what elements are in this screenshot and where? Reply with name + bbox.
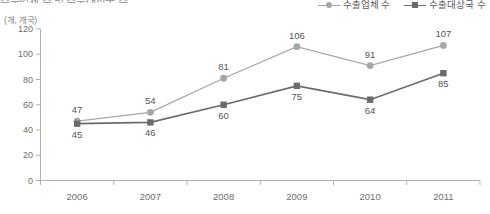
series-layer <box>74 42 447 127</box>
data-point-marker[interactable] <box>440 42 447 49</box>
data-point-marker[interactable] <box>74 120 80 126</box>
y-axis: 020406080100120 <box>18 24 41 186</box>
y-tick-label: 120 <box>18 24 33 34</box>
x-tick-label: 2006 <box>67 191 88 202</box>
y-tick-label: 60 <box>23 100 33 110</box>
data-point-marker[interactable] <box>220 75 227 82</box>
x-axis-ticks: 200620072008200920102011 <box>41 181 481 203</box>
chart-svg: 020406080100120 200620072008200920102011… <box>0 0 490 214</box>
x-axis: 200620072008200920102011 <box>41 181 481 203</box>
data-point-label: 75 <box>292 91 303 102</box>
y-tick-label: 0 <box>28 176 33 186</box>
chart-container: 수출업체 수 및 수출대상국 수 수출업체 수 수출대상국 수 (개, 개국) … <box>0 0 490 214</box>
data-point-label: 60 <box>218 110 229 121</box>
y-tick-label: 100 <box>18 49 33 59</box>
x-tick-label: 2008 <box>213 191 234 202</box>
data-point-label: 81 <box>218 61 229 72</box>
plot-area: 020406080100120 200620072008200920102011… <box>0 0 490 214</box>
data-point-marker[interactable] <box>147 119 153 125</box>
data-point-label: 91 <box>365 49 376 60</box>
x-tick-label: 2011 <box>433 191 453 202</box>
series-line-export-countries <box>77 73 443 124</box>
data-point-marker[interactable] <box>367 97 373 103</box>
y-tick-label: 80 <box>23 75 33 85</box>
data-point-marker[interactable] <box>147 109 154 116</box>
data-point-label: 46 <box>145 127 156 138</box>
x-tick-label: 2007 <box>140 191 161 202</box>
data-point-label: 107 <box>435 28 451 39</box>
data-point-marker[interactable] <box>367 62 374 69</box>
y-tick-label: 40 <box>23 125 33 135</box>
y-axis-ticks: 020406080100120 <box>18 24 41 186</box>
data-point-marker[interactable] <box>440 70 446 76</box>
data-point-label: 85 <box>438 78 449 89</box>
data-point-label: 54 <box>145 95 156 106</box>
x-tick-label: 2010 <box>360 191 381 202</box>
x-tick-label: 2009 <box>286 191 307 202</box>
data-point-marker[interactable] <box>294 83 300 89</box>
data-point-label: 64 <box>365 105 376 116</box>
data-point-marker[interactable] <box>293 43 300 50</box>
data-point-label: 45 <box>72 129 83 140</box>
y-tick-label: 20 <box>23 150 33 160</box>
data-point-marker[interactable] <box>220 102 226 108</box>
data-point-label: 47 <box>72 104 83 115</box>
data-point-label: 106 <box>289 30 305 41</box>
series-line-export-companies <box>77 45 443 121</box>
